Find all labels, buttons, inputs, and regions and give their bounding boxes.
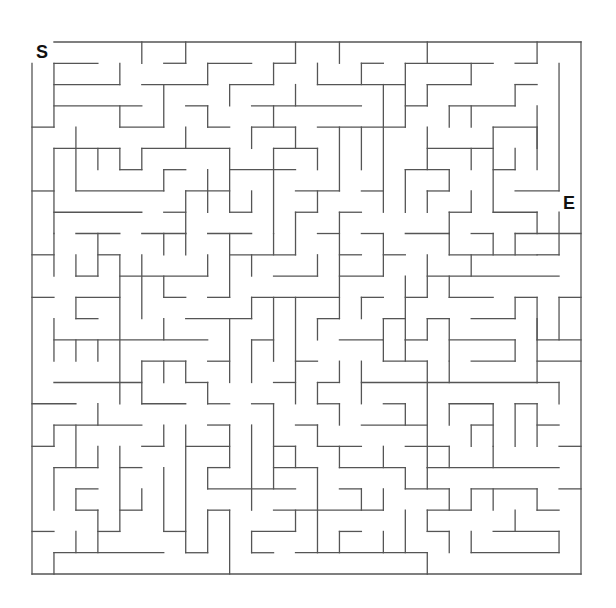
maze-grid	[0, 0, 616, 608]
end-marker: E	[563, 194, 575, 212]
start-marker: S	[36, 43, 48, 61]
